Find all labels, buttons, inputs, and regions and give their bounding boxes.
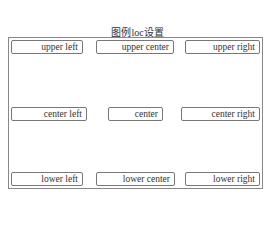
legend-lower-left: lower left: [11, 172, 83, 186]
legend-upper-right: upper right: [185, 40, 260, 54]
legend-lower-center: lower center: [96, 172, 175, 186]
legend-upper-left: upper left: [11, 40, 83, 54]
legend-center: center: [108, 107, 163, 121]
legend-upper-center: upper center: [96, 40, 174, 54]
legend-lower-right: lower right: [185, 172, 260, 186]
legend-center-right: center right: [181, 107, 260, 121]
legend-center-left: center left: [11, 107, 87, 121]
